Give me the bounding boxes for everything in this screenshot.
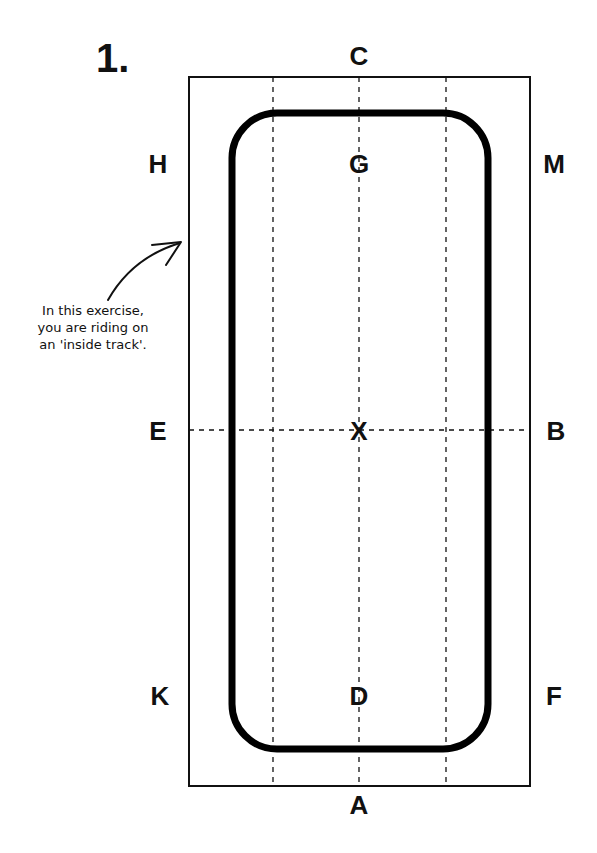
marker-k: K: [151, 683, 170, 709]
annotation-line-2: you are riding on: [8, 319, 178, 336]
marker-d: D: [350, 683, 369, 709]
arrow-icon: [108, 243, 180, 300]
marker-a: A: [350, 792, 369, 818]
marker-b: B: [547, 418, 566, 444]
marker-e: E: [149, 418, 166, 444]
marker-c: C: [350, 43, 369, 69]
marker-x: X: [350, 418, 367, 444]
marker-m: M: [543, 151, 565, 177]
arena-diagram: [0, 0, 597, 853]
figure-number: 1.: [96, 38, 129, 78]
marker-f: F: [546, 683, 562, 709]
annotation-note: In this exercise, you are riding on an '…: [8, 302, 178, 353]
marker-g: G: [349, 151, 369, 177]
annotation-line-3: an 'inside track'.: [8, 336, 178, 353]
marker-h: H: [149, 151, 168, 177]
annotation-line-1: In this exercise,: [8, 302, 178, 319]
